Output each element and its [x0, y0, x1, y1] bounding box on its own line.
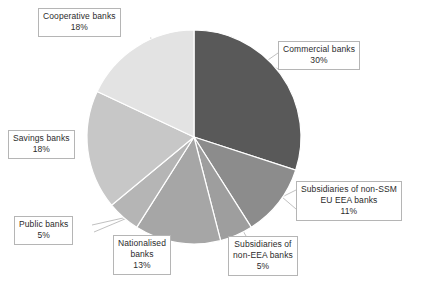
callout-subssm-label-line1: Subsidiaries of non-SSM: [301, 184, 397, 195]
pie-slices-group: [87, 30, 301, 244]
callout-savings-banks[interactable]: Savings banks 18%: [8, 130, 75, 159]
callout-public-label: Public banks: [19, 219, 68, 230]
callout-savings-label: Savings banks: [13, 133, 70, 144]
callout-subssm-value: 11%: [301, 206, 397, 217]
callout-public-value: 5%: [19, 230, 68, 241]
callout-cooperative-banks[interactable]: Cooperative banks 18%: [38, 8, 121, 37]
callout-nationalised-banks[interactable]: Nationalised banks 13%: [113, 235, 171, 275]
callout-cooperative-value: 18%: [43, 22, 116, 33]
callout-commercial-value: 30%: [283, 55, 355, 66]
callout-subeea-label-line2: non-EEA banks: [233, 250, 293, 261]
callout-subsidiaries-non-ssm-eu-eea-banks[interactable]: Subsidiaries of non-SSM EU EEA banks 11%: [296, 181, 402, 221]
callout-cooperative-label: Cooperative banks: [43, 11, 116, 22]
callout-public-banks[interactable]: Public banks 5%: [14, 216, 73, 245]
callout-nationalised-label-line1: Nationalised: [118, 238, 166, 249]
callout-savings-value: 18%: [13, 144, 70, 155]
callout-subeea-value: 5%: [233, 261, 293, 272]
callout-nationalised-value: 13%: [118, 260, 166, 271]
callout-commercial-banks[interactable]: Commercial banks 30%: [278, 41, 360, 70]
callout-commercial-label: Commercial banks: [283, 44, 355, 55]
callout-subeea-label-line1: Subsidiaries of: [233, 239, 293, 250]
callout-subssm-label-line2: EU EEA banks: [301, 195, 397, 206]
callout-nationalised-label-line2: banks: [118, 249, 166, 260]
pie-chart-figure: Cooperative banks 18% Commercial banks 3…: [0, 0, 427, 301]
callout-subsidiaries-non-eea-banks[interactable]: Subsidiaries of non-EEA banks 5%: [228, 236, 298, 276]
